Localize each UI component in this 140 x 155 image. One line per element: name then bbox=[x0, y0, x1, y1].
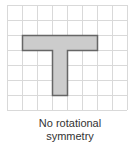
caption-line-1: No rotational bbox=[0, 117, 140, 130]
caption-line-2: symmetry bbox=[0, 130, 140, 143]
grid-diagram bbox=[0, 0, 140, 120]
caption: No rotational symmetry bbox=[0, 117, 140, 143]
